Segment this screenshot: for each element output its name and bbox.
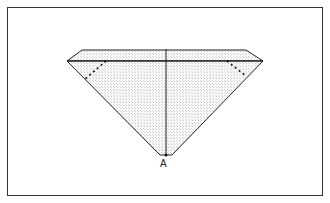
diamond-pavilion [67,61,263,155]
culet-point [165,154,168,157]
diamond-diagram [0,0,330,203]
culet-label: A [160,158,167,169]
diamond-crown [67,50,263,61]
